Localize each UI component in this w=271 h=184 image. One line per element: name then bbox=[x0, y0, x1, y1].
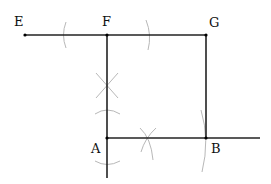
construction-svg bbox=[0, 0, 271, 184]
main-lines bbox=[25, 35, 260, 178]
point-a bbox=[105, 136, 108, 139]
label-a: A bbox=[91, 142, 100, 155]
point-f bbox=[105, 33, 108, 36]
arc-through-b bbox=[201, 110, 206, 172]
point-b bbox=[204, 136, 207, 139]
point-g bbox=[204, 33, 207, 36]
construction-arcs bbox=[64, 20, 206, 172]
label-e: E bbox=[14, 15, 24, 28]
label-f: F bbox=[102, 15, 111, 28]
point-e bbox=[23, 33, 26, 36]
diagram-canvas: E F G A B bbox=[0, 0, 271, 184]
points bbox=[23, 33, 207, 139]
label-b: B bbox=[211, 142, 221, 155]
label-g: G bbox=[209, 16, 219, 29]
